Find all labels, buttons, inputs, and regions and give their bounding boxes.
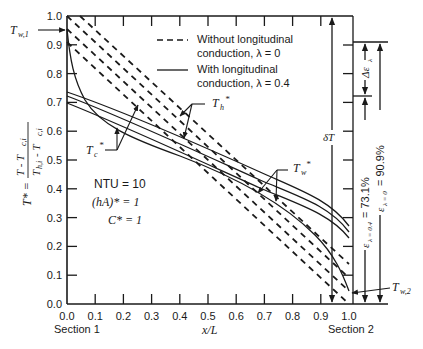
svg-text:0.8: 0.8 bbox=[47, 68, 62, 80]
svg-text:0.5: 0.5 bbox=[200, 310, 215, 322]
svg-text:0.9: 0.9 bbox=[313, 310, 328, 322]
svg-text:0.1: 0.1 bbox=[88, 310, 103, 322]
svg-text:0.3: 0.3 bbox=[144, 310, 159, 322]
svg-text:0.3: 0.3 bbox=[47, 212, 62, 224]
eps-0-label: ε λ = 0 = 90.9% bbox=[374, 145, 389, 212]
svg-text:T: T bbox=[30, 169, 42, 176]
delta-eps-label: Δε λ bbox=[359, 59, 374, 79]
svg-text:ε: ε bbox=[359, 243, 371, 248]
legend-solid-label-1: With longitudinal bbox=[197, 63, 278, 75]
svg-text:1.0: 1.0 bbox=[47, 10, 62, 22]
section-1-label: Section 1 bbox=[54, 323, 100, 335]
svg-text:*: * bbox=[99, 140, 104, 150]
parameters-block: NTU = 10 (hA)* = 1 C* = 1 bbox=[92, 177, 146, 227]
svg-text:0.7: 0.7 bbox=[47, 96, 62, 108]
svg-text:h: h bbox=[220, 103, 224, 112]
svg-text:0.7: 0.7 bbox=[257, 310, 272, 322]
svg-text:0.2: 0.2 bbox=[47, 240, 62, 252]
cstar-label: C* = 1 bbox=[108, 213, 142, 227]
svg-text:0.0: 0.0 bbox=[47, 298, 62, 310]
svg-text:0.9: 0.9 bbox=[47, 39, 62, 51]
svg-text:w: w bbox=[301, 168, 307, 177]
y-tick-labels: 0.0 0.1 0.2 0.3 0.4 0.5 0.6 0.7 0.8 0.9 … bbox=[47, 10, 62, 310]
svg-text:λ: λ bbox=[366, 59, 374, 63]
svg-text:c,i: c,i bbox=[19, 138, 28, 146]
svg-text:T* =: T* = bbox=[20, 182, 34, 206]
svg-text:w,1: w,1 bbox=[18, 30, 29, 39]
svg-text:T: T bbox=[212, 96, 220, 110]
delta-t-label: δT bbox=[323, 131, 335, 143]
tw-annotation: T w * bbox=[258, 159, 311, 201]
ntu-label: NTU = 10 bbox=[94, 177, 146, 191]
svg-text:0.5: 0.5 bbox=[47, 154, 62, 166]
x-axis-label: x/L bbox=[201, 323, 218, 337]
svg-text:0.1: 0.1 bbox=[47, 269, 62, 281]
svg-text:ε: ε bbox=[374, 207, 386, 212]
svg-text:0.2: 0.2 bbox=[116, 310, 131, 322]
svg-text:c: c bbox=[94, 150, 98, 159]
tc-annotation: T c * bbox=[86, 105, 138, 159]
tw2-annotation: T w,2 bbox=[352, 280, 411, 296]
x-tick-labels: 0.0 0.1 0.2 0.3 0.4 0.5 0.6 0.7 0.8 0.9 … bbox=[59, 310, 356, 322]
svg-text:T: T bbox=[86, 143, 94, 157]
svg-text:0.4: 0.4 bbox=[172, 310, 187, 322]
legend-dashed-label-2: conduction, λ = 0 bbox=[197, 47, 280, 59]
chart: 0.0 0.1 0.2 0.3 0.4 0.5 0.6 0.7 0.8 0.9 … bbox=[0, 0, 423, 349]
svg-text:*: * bbox=[306, 159, 311, 169]
legend-solid-label-2: conduction, λ = 0.4 bbox=[197, 77, 290, 89]
tw1-annotation: T w,1 bbox=[10, 23, 65, 39]
svg-text:1.0: 1.0 bbox=[341, 310, 356, 322]
x-axis-top-ticks bbox=[95, 16, 321, 26]
section-2-label: Section 2 bbox=[328, 323, 374, 335]
svg-text:T - T: T - T bbox=[14, 154, 26, 176]
svg-text:= 90.9%: = 90.9% bbox=[374, 145, 386, 186]
svg-text:λ = 0: λ = 0 bbox=[381, 191, 389, 207]
svg-text:0.6: 0.6 bbox=[47, 125, 62, 137]
svg-text:0.0: 0.0 bbox=[59, 310, 74, 322]
svg-text:Δε: Δε bbox=[359, 67, 371, 79]
svg-text:T: T bbox=[10, 23, 18, 37]
svg-text:- T: - T bbox=[30, 144, 42, 157]
svg-text:T: T bbox=[293, 161, 301, 175]
svg-text:λ = 0.4: λ = 0.4 bbox=[366, 221, 374, 243]
svg-text:w,2: w,2 bbox=[400, 287, 411, 296]
svg-text:0.4: 0.4 bbox=[47, 183, 62, 195]
x-axis-ticks bbox=[95, 294, 321, 304]
svg-text:c,i: c,i bbox=[35, 128, 44, 136]
svg-text:h,i: h,i bbox=[35, 161, 44, 169]
legend-dashed-label-1: Without longitudinal bbox=[197, 33, 293, 45]
svg-text:= 73.1%: = 73.1% bbox=[359, 177, 371, 218]
svg-text:T: T bbox=[392, 280, 400, 294]
y-axis-label: T* = T - T c,i T h,i - T c,i bbox=[14, 122, 44, 206]
ha-label: (hA)* = 1 bbox=[92, 195, 139, 209]
svg-text:*: * bbox=[225, 94, 230, 104]
svg-text:0.8: 0.8 bbox=[285, 310, 300, 322]
legend: Without longitudinal conduction, λ = 0 W… bbox=[157, 33, 293, 89]
svg-text:0.6: 0.6 bbox=[229, 310, 244, 322]
eps-0-4-label: ε λ = 0.4 = 73.1% bbox=[359, 177, 374, 248]
